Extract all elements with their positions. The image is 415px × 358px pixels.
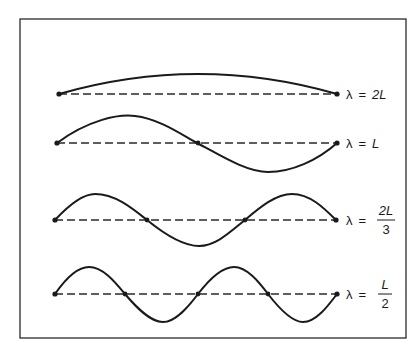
mode-2-second-harmonic: λ=L [54, 116, 379, 172]
middle-node [196, 141, 201, 146]
mode-4-fourth-harmonic: λ= L 2 [52, 267, 392, 322]
wave-curve [59, 74, 337, 94]
fraction-denominator: 3 [382, 222, 389, 237]
svg-text:λ=2L: λ=2L [346, 87, 387, 102]
wavelength-value: L [372, 136, 379, 151]
equals-sign: = [359, 87, 367, 102]
standing-waves-diagram: λ=2L λ=L λ= 2L 3 λ= L 2 [0, 0, 415, 358]
lambda-symbol: λ [346, 213, 353, 228]
mode-1-fundamental: λ=2L [56, 74, 386, 102]
fixed-end-node [52, 291, 57, 296]
equals-sign: = [359, 287, 367, 302]
fraction-denominator: 2 [381, 296, 388, 311]
fixed-end-node [334, 291, 339, 296]
middle-node [123, 292, 128, 297]
svg-text:λ=L: λ=L [346, 136, 379, 151]
middle-node [266, 292, 271, 297]
fraction-numerator: 2L [378, 203, 393, 218]
mode-3-third-harmonic: λ= 2L 3 [52, 194, 395, 246]
equals-sign: = [359, 136, 367, 151]
wavelength-value: 2L [371, 87, 386, 102]
fixed-end-node [56, 91, 61, 96]
fixed-end-node [334, 140, 339, 145]
lambda-symbol: λ [346, 87, 353, 102]
svg-text:λ=: λ= [346, 287, 366, 302]
fixed-end-node [52, 217, 57, 222]
lambda-symbol: λ [346, 287, 353, 302]
middle-node [243, 218, 248, 223]
lambda-symbol: λ [346, 136, 353, 151]
fixed-end-node [333, 217, 338, 222]
equals-sign: = [359, 213, 367, 228]
svg-text:λ=: λ= [346, 213, 366, 228]
fixed-end-node [54, 140, 59, 145]
fixed-end-node [334, 91, 339, 96]
fraction-numerator: L [381, 277, 388, 292]
middle-node [145, 218, 150, 223]
middle-node [196, 292, 201, 297]
